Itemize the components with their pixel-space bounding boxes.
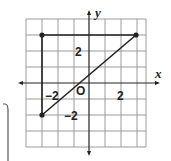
y-tick-neg2: −2: [64, 109, 78, 123]
y-axis-arrow-down-icon: [87, 151, 91, 156]
y-axis-label: y: [93, 5, 101, 20]
point-b: [133, 32, 138, 37]
y-axis-arrow-up-icon: [87, 10, 91, 15]
x-axis-label: x: [154, 66, 162, 81]
y-tick-2: 2: [75, 45, 82, 59]
point-c: [39, 112, 44, 117]
origin-label: O: [76, 84, 85, 98]
point-a: [39, 32, 44, 37]
x-axis-arrow-left-icon: [18, 81, 23, 85]
coordinate-plane: y x O 2 −2 −2 2: [0, 0, 171, 161]
page-frame-edge: [3, 104, 8, 161]
x-axis-arrow-right-icon: [155, 81, 160, 85]
x-tick-neg2: −2: [45, 89, 59, 103]
x-tick-2: 2: [117, 89, 124, 103]
